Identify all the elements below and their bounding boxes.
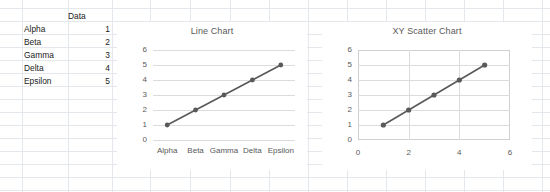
line-chart-y-tick-label: 5 <box>117 61 147 69</box>
worksheet-row-label[interactable]: Epsilon <box>24 76 51 86</box>
worksheet-row-value[interactable]: 4 <box>70 63 110 73</box>
worksheet-row-label[interactable]: Alpha <box>24 24 45 34</box>
scatter-chart-title: XY Scatter Chart <box>322 26 532 36</box>
worksheet-row-value[interactable]: 5 <box>70 76 110 86</box>
line-chart-series <box>153 50 295 140</box>
scatter-chart-y-tick-label: 0 <box>322 136 352 144</box>
grid-column-line <box>112 0 113 192</box>
scatter-chart-plot-area <box>358 50 510 140</box>
grid-column-line <box>68 0 69 192</box>
line-chart-x-category-label: Epsilon <box>256 147 306 155</box>
worksheet-row-label[interactable]: Gamma <box>24 50 54 60</box>
line-chart-y-tick-label: 2 <box>117 106 147 114</box>
scatter-chart-y-tick-label: 3 <box>322 91 352 99</box>
scatter-chart-object[interactable]: XY Scatter Chart 65432100246 <box>322 22 532 170</box>
grid-column-line <box>308 0 309 192</box>
scatter-chart-y-tick-label: 6 <box>322 46 352 54</box>
line-chart-object[interactable]: Line Chart 6543210AlphaBetaGammaDeltaEps… <box>117 22 307 170</box>
line-chart-y-tick-label: 4 <box>117 76 147 84</box>
worksheet-row-value[interactable]: 3 <box>70 50 110 60</box>
scatter-chart-x-tick-label: 0 <box>338 149 378 157</box>
scatter-chart-y-tick-label: 1 <box>322 121 352 129</box>
grid-row-line <box>0 177 550 178</box>
scatter-chart-x-tick-label: 6 <box>490 149 530 157</box>
worksheet-row-label[interactable]: Delta <box>24 63 44 73</box>
line-chart-y-tick-label: 6 <box>117 46 147 54</box>
worksheet-row-value[interactable]: 2 <box>70 37 110 47</box>
line-chart-plot-area <box>153 50 295 140</box>
worksheet-row-label[interactable]: Beta <box>24 37 41 47</box>
grid-row-line <box>0 190 550 191</box>
scatter-chart-y-tick-label: 5 <box>322 61 352 69</box>
line-chart-title: Line Chart <box>117 26 307 36</box>
line-chart-y-tick-label: 0 <box>117 136 147 144</box>
column-header-data[interactable]: Data <box>68 11 86 21</box>
grid-column-line <box>22 0 23 192</box>
line-chart-y-tick-label: 3 <box>117 91 147 99</box>
grid-row-line <box>0 8 550 9</box>
scatter-chart-y-tick-label: 4 <box>322 76 352 84</box>
line-chart-gridline <box>153 140 295 141</box>
grid-column-line <box>542 0 543 192</box>
scatter-chart-x-tick-label: 4 <box>439 149 479 157</box>
line-chart-y-tick-label: 1 <box>117 121 147 129</box>
scatter-chart-series <box>358 50 510 140</box>
scatter-chart-y-tick-label: 2 <box>322 106 352 114</box>
scatter-chart-x-tick-label: 2 <box>389 149 429 157</box>
worksheet-row-value[interactable]: 1 <box>70 24 110 34</box>
spreadsheet-screenshot: DataAlpha1Beta2Gamma3Delta4Epsilon5 Line… <box>0 0 550 192</box>
